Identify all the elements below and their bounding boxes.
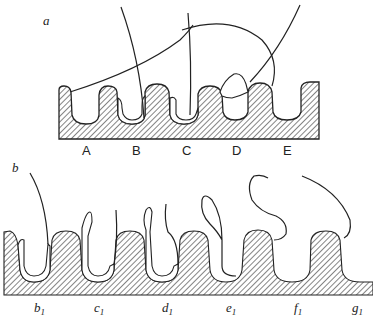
panel-b-label-g1: g1: [352, 300, 363, 317]
panel-b-film-c1: [82, 212, 114, 282]
panel-a-thread-b: [121, 7, 144, 118]
panel-b: b b1 c1 d1 e1 f1 g1: [4, 160, 373, 317]
panel-b-film-b1: [18, 240, 50, 282]
panel-a-thread-arc: [182, 24, 274, 86]
panel-a-label-C: C: [182, 143, 191, 158]
panel-b-label-e1: e1: [226, 300, 236, 317]
panel-a-blob-d: [220, 74, 248, 98]
panel-b-thread-g1: [302, 176, 350, 238]
panel-b-thread-d1: [165, 204, 178, 264]
panel-b-label-f1: f1: [294, 300, 302, 317]
panel-a-substrate: [59, 82, 319, 139]
panel-a-film-c: [170, 97, 198, 124]
panel-a-film-b: [118, 96, 145, 124]
panel-b-label-d1: d1: [162, 300, 173, 317]
panel-a-thread-a: [70, 25, 193, 92]
panel-b-film-d1: [144, 207, 178, 282]
panel-a: a A B C D E: [43, 5, 319, 158]
panel-a-label-D: D: [232, 143, 241, 158]
panel-b-label: b: [12, 160, 19, 175]
panel-a-label-A: A: [82, 143, 91, 158]
panel-a-label: a: [43, 13, 50, 28]
panel-b-label-b1: b1: [34, 300, 45, 317]
panel-a-label-B: B: [132, 143, 141, 158]
panel-b-substrate: [4, 230, 373, 295]
diagram-canvas: a A B C D E b: [0, 0, 373, 317]
panel-b-thread-b1: [30, 173, 48, 244]
panel-a-label-E: E: [283, 143, 292, 158]
panel-b-label-c1: c1: [94, 300, 104, 317]
